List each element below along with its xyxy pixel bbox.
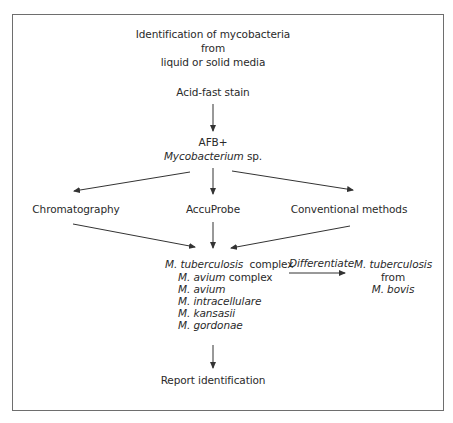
method-chromatography: Chromatography xyxy=(32,203,119,216)
method-conventional: Conventional methods xyxy=(291,203,408,216)
species-name: M. intracellulare xyxy=(178,295,261,307)
arrow-conventional-to-species xyxy=(231,226,350,248)
step-afb-positive: AFB+ xyxy=(199,136,228,149)
differentiate-result-line-1: M. tuberculosis xyxy=(354,258,432,271)
species-name: M. avium xyxy=(178,283,225,295)
arrow-afb-to-chromatography xyxy=(74,172,190,191)
species-name: M. avium xyxy=(178,271,225,283)
genus-name: Mycobacterium xyxy=(164,150,244,162)
step-acid-fast-stain: Acid-fast stain xyxy=(176,86,249,99)
differentiate-label: Differentiate xyxy=(289,257,354,270)
step-mycobacterium-sp: Mycobacterium sp. xyxy=(164,150,262,163)
title-line-2: from xyxy=(201,42,225,55)
species-name: M. tuberculosis xyxy=(165,258,243,270)
species-name: M. gordonae xyxy=(178,319,243,331)
species-suffix: sp. xyxy=(244,150,262,162)
species-item: M. tuberculosis complex xyxy=(165,258,293,271)
species-item: M. gordonae xyxy=(178,319,243,332)
species-qualifier: complex xyxy=(225,271,272,283)
differentiate-result-line-3: M. bovis xyxy=(372,283,415,296)
title-line-1: Identification of mycobacteria xyxy=(136,28,290,41)
title-line-3: liquid or solid media xyxy=(161,56,266,69)
method-accuprobe: AccuProbe xyxy=(186,203,240,216)
arrow-afb-to-conventional xyxy=(232,171,353,190)
arrow-chromatography-to-species xyxy=(73,224,195,247)
step-report-identification: Report identification xyxy=(161,374,266,387)
species-name: M. kansasii xyxy=(178,307,235,319)
species-qualifier: complex xyxy=(243,258,293,270)
